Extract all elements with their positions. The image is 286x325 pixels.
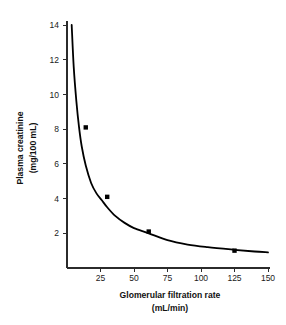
y-ticklabel-6: 6: [54, 159, 59, 169]
x-axis-units: (mL/min): [152, 303, 188, 313]
x-axis-ticks: 25 50 75 100 125 150: [96, 268, 276, 283]
y-ticklabel-14: 14: [50, 20, 60, 30]
x-ticklabel-75: 75: [163, 273, 173, 283]
y-ticklabel-12: 12: [50, 55, 60, 65]
data-markers: [84, 125, 237, 253]
data-curve: [72, 25, 268, 252]
y-ticklabel-2: 2: [54, 228, 59, 238]
chart-figure: 14 12 10 8 6 4 2 25 50 75 100 1: [0, 0, 286, 325]
x-axis-title: Glomerular filtration rate: [120, 290, 221, 300]
y-ticklabel-10: 10: [50, 90, 60, 100]
data-point-2: [147, 229, 151, 233]
x-ticklabel-50: 50: [129, 273, 139, 283]
y-axis-units: (mg/100 mL): [28, 123, 38, 174]
x-ticklabel-150: 150: [261, 273, 275, 283]
data-point-0: [84, 125, 88, 129]
plot-area: 14 12 10 8 6 4 2 25 50 75 100 1: [0, 0, 286, 325]
y-ticklabel-8: 8: [54, 124, 59, 134]
y-axis-ticks: 14 12 10 8 6 4 2: [50, 20, 67, 238]
x-ticklabel-100: 100: [194, 273, 208, 283]
y-axis-title: Plasma creatinine: [15, 111, 25, 184]
y-ticklabel-4: 4: [54, 194, 59, 204]
data-point-1: [105, 195, 109, 199]
x-ticklabel-125: 125: [227, 273, 241, 283]
data-point-3: [232, 248, 236, 252]
x-ticklabel-25: 25: [96, 273, 106, 283]
